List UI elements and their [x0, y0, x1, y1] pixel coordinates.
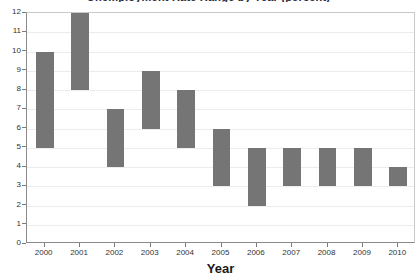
gridline — [27, 90, 414, 91]
plot-area — [26, 12, 415, 243]
y-tick-label: 9 — [17, 65, 21, 75]
x-tick-label: 2003 — [130, 248, 170, 257]
chart-root: Unemployment Rate Range by Year (percent… — [0, 0, 417, 279]
x-tick-mark — [79, 243, 80, 247]
y-tick-label: 5 — [17, 142, 21, 152]
bar-2000[interactable] — [36, 52, 54, 148]
bar-2008[interactable] — [319, 148, 337, 187]
x-tick-label: 2004 — [165, 248, 205, 257]
x-tick-label: 2008 — [307, 248, 347, 257]
x-tick-mark — [397, 243, 398, 247]
y-tick-label: 0 — [17, 238, 21, 248]
y-axis: 0123456789101112 — [0, 12, 26, 243]
y-tick-mark — [22, 185, 26, 186]
x-tick-label: 2002 — [94, 248, 134, 257]
y-tick-label: 12 — [12, 7, 21, 17]
y-tick-label: 1 — [17, 219, 21, 229]
x-tick-label: 2000 — [24, 248, 64, 257]
x-tick-mark — [362, 243, 363, 247]
bar-2005[interactable] — [213, 129, 231, 187]
y-tick-mark — [22, 50, 26, 51]
x-tick-mark — [44, 243, 45, 247]
y-tick-mark — [22, 204, 26, 205]
x-tick-mark — [221, 243, 222, 247]
x-tick-mark — [114, 243, 115, 247]
y-tick-mark — [22, 127, 26, 128]
y-tick-mark — [22, 166, 26, 167]
x-tick-mark — [327, 243, 328, 247]
bar-2007[interactable] — [283, 148, 301, 187]
y-tick-label: 2 — [17, 200, 21, 210]
y-tick-mark — [22, 31, 26, 32]
bar-2002[interactable] — [107, 109, 125, 167]
y-tick-mark — [22, 89, 26, 90]
gridline — [27, 225, 414, 226]
y-tick-mark — [22, 108, 26, 109]
y-tick-label: 6 — [17, 123, 21, 133]
x-tick-label: 2006 — [236, 248, 276, 257]
x-tick-mark — [256, 243, 257, 247]
gridline — [27, 109, 414, 110]
bar-2009[interactable] — [354, 148, 372, 187]
bar-2004[interactable] — [177, 90, 195, 148]
chart-title-cutoff: Unemployment Rate Range by Year (percent… — [0, 0, 417, 2]
x-tick-label: 2009 — [342, 248, 382, 257]
x-tick-label: 2010 — [377, 248, 417, 257]
y-tick-label: 10 — [12, 46, 21, 56]
bar-2006[interactable] — [248, 148, 266, 206]
bar-2001[interactable] — [71, 13, 89, 90]
y-tick-label: 4 — [17, 161, 21, 171]
gridline — [27, 206, 414, 207]
x-tick-label: 2001 — [59, 248, 99, 257]
y-tick-mark — [22, 12, 26, 13]
y-tick-mark — [22, 146, 26, 147]
y-tick-label: 11 — [13, 26, 21, 36]
y-tick-label: 7 — [17, 103, 21, 113]
y-tick-mark — [22, 223, 26, 224]
x-tick-label: 2007 — [271, 248, 311, 257]
x-tick-mark — [150, 243, 151, 247]
gridline — [27, 186, 414, 187]
y-tick-label: 3 — [17, 180, 21, 190]
x-tick-mark — [185, 243, 186, 247]
bar-2010[interactable] — [389, 167, 407, 186]
x-axis: 2000200120022003200420052006200720082009… — [26, 243, 415, 261]
x-axis-title: Year — [26, 261, 415, 276]
x-tick-label: 2005 — [201, 248, 241, 257]
y-tick-label: 8 — [17, 84, 21, 94]
bar-2003[interactable] — [142, 71, 160, 129]
x-tick-mark — [291, 243, 292, 247]
y-tick-mark — [22, 69, 26, 70]
